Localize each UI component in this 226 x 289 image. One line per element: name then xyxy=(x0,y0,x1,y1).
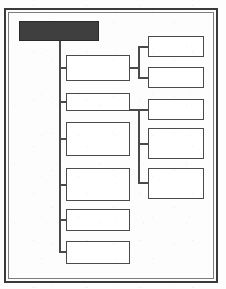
node-right-4[interactable] xyxy=(148,128,204,159)
node-right-2[interactable] xyxy=(148,67,204,88)
node-right-4-label xyxy=(149,129,203,158)
node-left-2[interactable] xyxy=(66,93,130,111)
node-left-4-label xyxy=(67,169,129,200)
node-left-2-label xyxy=(67,94,129,110)
node-right-2-label xyxy=(149,68,203,87)
node-left-1-label xyxy=(67,56,129,80)
node-left-4[interactable] xyxy=(66,168,130,201)
node-right-5[interactable] xyxy=(148,168,204,199)
node-left-5[interactable] xyxy=(66,209,130,231)
node-left-3-label xyxy=(67,123,129,155)
node-left-5-label xyxy=(67,210,129,230)
lower-right-trunk-vertical xyxy=(138,109,140,183)
node-left-1[interactable] xyxy=(66,55,130,81)
node-left-3[interactable] xyxy=(66,122,130,156)
node-right-3-label xyxy=(149,100,203,119)
node-right-3[interactable] xyxy=(148,99,204,120)
node-right-1-label xyxy=(149,37,203,56)
upper-right-trunk-vertical xyxy=(138,46,140,78)
node-header[interactable] xyxy=(19,21,99,41)
node-right-5-label xyxy=(149,169,203,198)
node-left-6[interactable] xyxy=(66,241,130,264)
node-left-6-label xyxy=(67,242,129,263)
node-right-1[interactable] xyxy=(148,36,204,57)
node-header-label xyxy=(20,22,98,40)
scanned-chart-page xyxy=(0,0,226,289)
